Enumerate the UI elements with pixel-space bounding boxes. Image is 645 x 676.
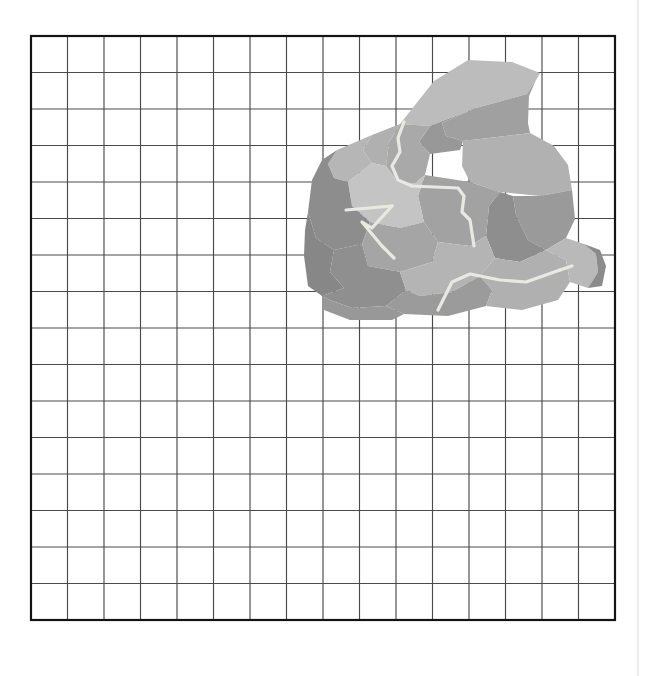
scene-canvas: Rock on Grid Canvas Square Grid Low Poly… [0, 0, 645, 676]
scene-svg [0, 0, 645, 676]
